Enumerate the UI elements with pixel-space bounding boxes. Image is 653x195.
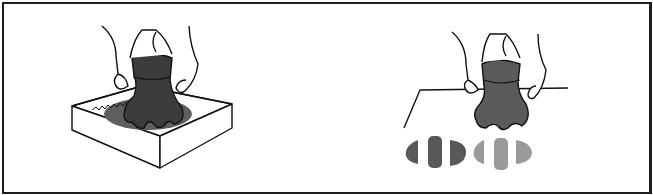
stamp-prints-icon bbox=[406, 136, 532, 170]
right-panel bbox=[404, 32, 568, 170]
left-panel bbox=[72, 26, 232, 168]
illustration bbox=[0, 0, 653, 195]
stamp-icon bbox=[475, 60, 529, 130]
